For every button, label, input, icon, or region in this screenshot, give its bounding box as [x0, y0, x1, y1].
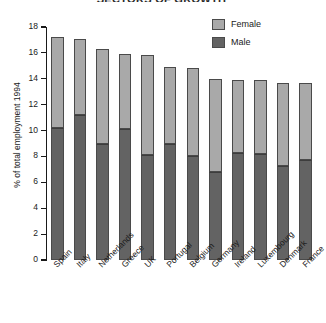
legend-label-male: Male	[231, 38, 251, 47]
bar-uk[interactable]	[141, 55, 154, 260]
bar-segment-female	[141, 55, 154, 155]
bar-segment-female	[119, 54, 132, 129]
legend-swatch-male-icon	[212, 37, 225, 48]
legend-item-male[interactable]: Male	[212, 37, 261, 48]
bar-segment-male	[51, 128, 64, 260]
y-tick-label: 10	[29, 126, 38, 135]
bar-segment-male	[96, 144, 109, 261]
bar-segment-female	[51, 37, 64, 128]
chart-title: SECTORS OF GROWTH	[0, 0, 323, 2]
bar-greece[interactable]	[119, 54, 132, 260]
plot-area	[46, 27, 317, 260]
bar-segment-female	[299, 83, 312, 161]
bar-segment-female	[232, 80, 245, 152]
bar-segment-female	[74, 39, 87, 115]
y-tick-label: 8	[33, 151, 38, 160]
bar-segment-male	[74, 115, 87, 260]
y-tick-label: 4	[33, 203, 38, 212]
y-tick-label: 2	[33, 229, 38, 238]
bar-spain[interactable]	[51, 37, 64, 260]
y-tick-label: 12	[29, 100, 38, 109]
bar-italy[interactable]	[74, 39, 87, 260]
y-tick-label: 16	[29, 48, 38, 57]
y-tick-label: 18	[29, 22, 38, 31]
bar-luxembourg[interactable]	[254, 80, 267, 260]
bar-segment-male	[164, 144, 177, 261]
bar-segment-female	[96, 49, 109, 143]
bar-portugal[interactable]	[164, 67, 177, 260]
y-tick-label: 6	[33, 177, 38, 186]
legend-item-female[interactable]: Female	[212, 19, 261, 30]
bar-netherlands[interactable]	[96, 49, 109, 260]
chart-legend: Female Male	[212, 19, 261, 55]
bar-germany[interactable]	[209, 79, 222, 260]
legend-swatch-female-icon	[212, 19, 225, 30]
bar-belgium[interactable]	[187, 68, 200, 260]
y-tick-label: 14	[29, 74, 38, 83]
bar-segment-female	[187, 68, 200, 156]
bar-france[interactable]	[299, 83, 312, 260]
bar-segment-male	[254, 154, 267, 260]
bar-segment-female	[254, 80, 267, 154]
bar-segment-female	[164, 67, 177, 143]
y-axis-label: % of total employment 1994	[12, 60, 22, 210]
bar-segment-female	[277, 83, 290, 166]
bar-segment-male	[141, 155, 154, 260]
y-tick-label: 0	[33, 255, 38, 264]
bar-ireland[interactable]	[232, 80, 245, 260]
bar-segment-female	[209, 79, 222, 172]
legend-label-female: Female	[231, 20, 261, 29]
